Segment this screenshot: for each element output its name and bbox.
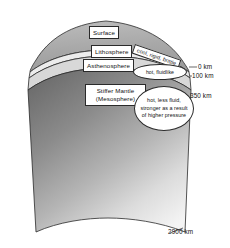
depth-marker-100km: 100 km xyxy=(192,72,214,79)
depth-marker-2900km: 2900 km xyxy=(168,228,193,235)
depth-marker-0km: 0 km xyxy=(198,63,212,70)
label-stiffer-mantle-line2: (Mesosphere) xyxy=(96,95,135,102)
label-asthenosphere: Asthenosphere xyxy=(83,59,134,72)
annotation-asthenosphere: hot, fluidlike xyxy=(133,64,187,80)
earth-layers-diagram: Surface Lithosphere Asthenosphere Stiffe… xyxy=(0,0,230,248)
label-stiffer-mantle-line1: Stiffer Mantle xyxy=(97,87,135,94)
annotation-mesosphere: hot, less fluid, stronger as a result of… xyxy=(134,86,194,131)
label-surface: Surface xyxy=(89,26,119,39)
label-lithosphere: Lithosphere xyxy=(91,45,132,58)
depth-marker-350km: 350 km xyxy=(190,92,212,99)
